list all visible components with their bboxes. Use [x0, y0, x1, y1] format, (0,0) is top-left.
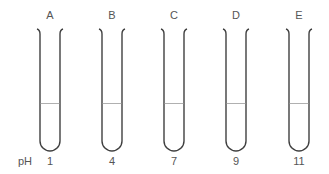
tube-letter-label: B: [108, 9, 115, 21]
ph-row-label: pH: [18, 155, 32, 167]
tube-letter-label: D: [232, 9, 240, 21]
ph-value-label: 9: [233, 155, 239, 167]
tube-letter-label: E: [295, 9, 302, 21]
test-tube-b: B4: [99, 9, 125, 167]
test-tube-outline: [99, 29, 125, 151]
test-tube-a: A1: [37, 9, 63, 167]
ph-value-label: 1: [47, 155, 53, 167]
test-tube-outline: [37, 29, 63, 151]
test-tube-d: D9: [223, 9, 249, 167]
tube-letter-label: A: [46, 9, 54, 21]
test-tube-diagram: pH A1B4C7D9E11: [0, 0, 329, 174]
test-tube-outline: [286, 29, 312, 151]
test-tube-outline: [161, 29, 187, 151]
ph-value-label: 11: [293, 155, 304, 167]
test-tube-e: E11: [286, 9, 312, 167]
ph-value-label: 7: [171, 155, 177, 167]
tube-letter-label: C: [170, 9, 178, 21]
ph-value-label: 4: [109, 155, 115, 167]
test-tube-c: C7: [161, 9, 187, 167]
test-tube-outline: [223, 29, 249, 151]
